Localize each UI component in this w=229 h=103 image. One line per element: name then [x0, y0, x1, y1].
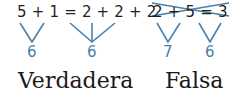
false-right-sum: 6: [205, 43, 215, 61]
false-label: Falsa: [165, 68, 223, 93]
true-label: Verdadera: [18, 68, 133, 93]
false-expression: 2 + 5 = 3 + 3: [153, 3, 229, 21]
false-left-sum: 7: [163, 43, 173, 61]
true-left-sum: 6: [27, 43, 37, 61]
true-expression: 5 + 1 = 2 + 2 + 2: [17, 3, 157, 21]
true-right-sum: 6: [87, 43, 97, 61]
